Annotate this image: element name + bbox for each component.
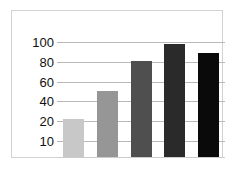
bar <box>164 44 185 158</box>
y-axis-tick-labels: 1008060402010 <box>12 40 54 158</box>
bar-chart-figure: 1008060402010 <box>0 0 236 171</box>
y-tick-label: 80 <box>40 56 54 69</box>
bar <box>198 53 219 158</box>
y-tick-label: 100 <box>32 36 54 49</box>
bar <box>63 119 84 158</box>
bar <box>131 61 152 158</box>
y-tick-label: 10 <box>40 135 54 148</box>
axis-baseline <box>57 157 225 158</box>
gridline <box>57 42 225 43</box>
y-tick-label: 20 <box>40 115 54 128</box>
bar <box>97 91 118 158</box>
chart-frame: 1008060402010 <box>11 10 223 158</box>
y-tick-label: 60 <box>40 76 54 89</box>
y-tick-label: 40 <box>40 95 54 108</box>
plot-area <box>57 40 225 158</box>
